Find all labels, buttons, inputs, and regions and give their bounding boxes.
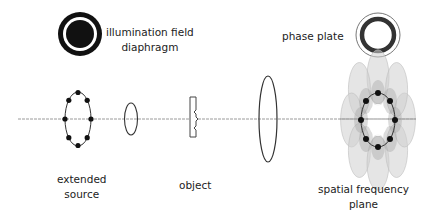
frequency-point	[375, 90, 381, 96]
source-point	[66, 98, 71, 103]
frequency-point	[392, 117, 398, 123]
frequency-point	[363, 98, 369, 104]
source-point	[62, 116, 67, 121]
label-line: diaphragm	[106, 40, 194, 55]
label-line: extended	[57, 172, 107, 187]
extended-source-label: extended source	[57, 172, 107, 202]
source-point	[85, 98, 90, 103]
phase-plate-label: phase plate	[282, 29, 344, 44]
object-icon	[190, 97, 198, 137]
frequency-point	[387, 98, 393, 104]
label-line: illumination field	[106, 25, 194, 40]
source-point	[85, 135, 90, 140]
spatial-frequency-plane-label: spatial frequency plane	[318, 182, 409, 212]
source-point	[88, 116, 93, 121]
frequency-point	[375, 144, 381, 150]
label-line: plane	[318, 197, 409, 212]
frequency-point	[387, 136, 393, 142]
spatial-frequency-plane-icon	[340, 50, 416, 190]
illumination-field-diaphragm-icon	[58, 12, 102, 56]
source-point	[66, 135, 71, 140]
source-point	[75, 90, 80, 95]
source-point	[75, 143, 80, 148]
illumination-field-diaphragm-label: illumination field diaphragm	[106, 25, 194, 55]
label-line: spatial frequency	[318, 182, 409, 197]
zero-order-gap	[368, 104, 388, 136]
object-label: object	[179, 178, 211, 193]
frequency-point	[358, 117, 364, 123]
label-line: source	[57, 187, 107, 202]
frequency-point	[363, 136, 369, 142]
phase-contrast-diagram: illumination field diaphragm phase plate…	[0, 0, 432, 218]
